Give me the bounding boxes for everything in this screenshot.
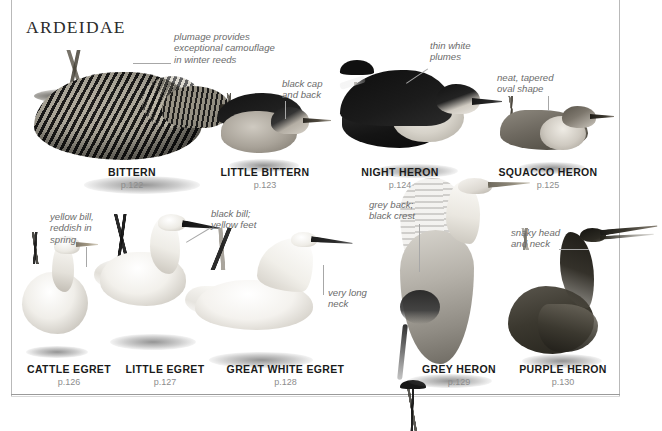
- night-heron-bill: [472, 98, 502, 105]
- species-name: GREAT WHITE EGRET: [208, 363, 363, 375]
- species-page-ref: p.126: [14, 376, 124, 388]
- ground-shadow: [26, 346, 88, 358]
- species-name: LITTLE BITTERN: [200, 166, 330, 178]
- annotation-purple-heron-neck: snaky head and neck: [511, 227, 596, 250]
- species-name: BITTERN: [72, 166, 192, 178]
- grey-heron-legs: [400, 389, 426, 431]
- leader-line-bittern-plumage: [133, 63, 171, 64]
- page-frame-left-rule: [11, 0, 12, 396]
- annotation-cattle-egret-bill: yellow bill, reddish in spring: [50, 211, 135, 245]
- species-page-ref: p.128: [208, 376, 363, 388]
- annotation-bittern-plumage: plumage provides exceptional camouflage …: [174, 31, 309, 65]
- bird-illustration-little-bittern: [215, 93, 335, 177]
- species-caption-squacco-heron: SQUACCO HERON p.125: [480, 166, 616, 191]
- little-egret-head: [158, 214, 186, 231]
- species-caption-little-bittern: LITTLE BITTERN p.123: [200, 166, 330, 191]
- leader-line-cattle-egret-bill: [86, 247, 87, 267]
- species-caption-bittern: BITTERN p.122: [72, 166, 192, 191]
- species-page-ref: p.125: [480, 179, 616, 191]
- squacco-heron-bill: [590, 114, 614, 119]
- leader-line-squacco-shape: [548, 96, 549, 111]
- page-frame-bottom-rule: [11, 394, 620, 395]
- purple-heron-plumes: [538, 304, 598, 352]
- leader-line-purple-heron-neck: [559, 249, 589, 250]
- species-caption-little-egret: LITTLE EGRET p.127: [110, 363, 220, 388]
- bird-illustration-night-heron: [340, 60, 510, 178]
- little-bittern-bill: [303, 118, 331, 123]
- species-caption-cattle-egret: CATTLE EGRET p.126: [14, 363, 124, 388]
- annotation-squacco-shape: neat, tapered oval shape: [497, 72, 592, 95]
- cattle-egret-legs: [22, 232, 50, 264]
- species-name: NIGHT HERON: [337, 166, 463, 178]
- species-caption-night-heron: NIGHT HERON p.124: [337, 166, 463, 191]
- annotation-grey-heron-back: grey back; black crest: [369, 199, 454, 222]
- night-heron-cap: [340, 60, 374, 75]
- leader-line-great-white-egret-neck: [323, 265, 324, 295]
- annotation-little-bittern-cap: black cap and back: [282, 78, 362, 101]
- species-page-ref: p.130: [500, 376, 626, 388]
- leader-line-grey-heron-back: [419, 224, 420, 272]
- species-name: LITTLE EGRET: [110, 363, 220, 375]
- great-white-egret-legs: [195, 228, 251, 270]
- species-caption-great-white-egret: GREAT WHITE EGRET p.128: [208, 363, 363, 388]
- annotation-night-heron-plumes: thin white plumes: [430, 40, 510, 63]
- species-name: CATTLE EGRET: [14, 363, 124, 375]
- annotation-little-egret-bill: black bill; yellow feet: [211, 208, 296, 231]
- species-page-ref: p.122: [72, 179, 192, 191]
- great-white-egret-bill: [311, 236, 353, 246]
- ground-shadow: [110, 334, 196, 350]
- species-page-ref: p.127: [110, 376, 220, 388]
- species-name: SQUACCO HERON: [480, 166, 616, 178]
- species-caption-purple-heron: PURPLE HERON p.130: [500, 363, 626, 388]
- species-page-ref: p.124: [337, 179, 463, 191]
- species-page-ref: p.123: [200, 179, 330, 191]
- grey-heron-shoulder-mark: [400, 290, 440, 324]
- leader-line-little-bittern-cap: [285, 101, 286, 119]
- species-name: PURPLE HERON: [500, 363, 626, 375]
- family-heading: ARDEIDAE: [26, 17, 126, 38]
- bird-illustration-cattle-egret: [22, 232, 112, 364]
- annotation-great-white-egret-neck: very long neck: [328, 287, 398, 310]
- page-frame-bottom-rule-shadow: [11, 396, 620, 397]
